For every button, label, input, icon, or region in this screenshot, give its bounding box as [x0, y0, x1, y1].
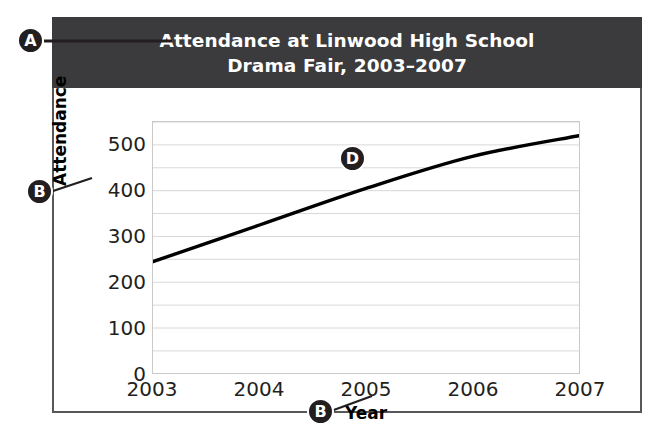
y-axis-title: Attendance: [50, 76, 70, 186]
chart-area: Attendance 0100200300400500 200320042005…: [52, 88, 642, 413]
x-tick-label: 2004: [234, 378, 285, 400]
y-tick-label: 200: [84, 272, 146, 292]
y-tick-label: 400: [84, 180, 146, 200]
x-tick-label: 2005: [341, 378, 392, 400]
x-tick-label: 2007: [555, 378, 606, 400]
x-axis-tick-labels: 20032004200520062007: [152, 378, 580, 404]
chart-title-band: Attendance at Linwood High School Drama …: [52, 17, 642, 88]
y-tick-label: 300: [84, 226, 146, 246]
y-tick-label: 100: [84, 318, 146, 338]
data-line: [153, 122, 579, 374]
callout-marker-a[interactable]: A: [17, 27, 44, 54]
x-axis-title: Year: [152, 403, 580, 423]
x-tick-label: 2006: [448, 378, 499, 400]
x-tick-label: 2003: [127, 378, 178, 400]
chart-title-line-2: Drama Fair, 2003–2007: [227, 53, 467, 78]
series-path: [153, 136, 579, 262]
callout-marker-b-xaxis[interactable]: B: [307, 398, 334, 425]
y-tick-label: 500: [84, 134, 146, 154]
plot-area: [152, 121, 580, 374]
chart-title-line-1: Attendance at Linwood High School: [159, 28, 534, 53]
y-axis-tick-labels: 0100200300400500: [84, 121, 146, 374]
callout-marker-d[interactable]: D: [339, 145, 366, 172]
callout-marker-b-yaxis[interactable]: B: [26, 178, 53, 205]
